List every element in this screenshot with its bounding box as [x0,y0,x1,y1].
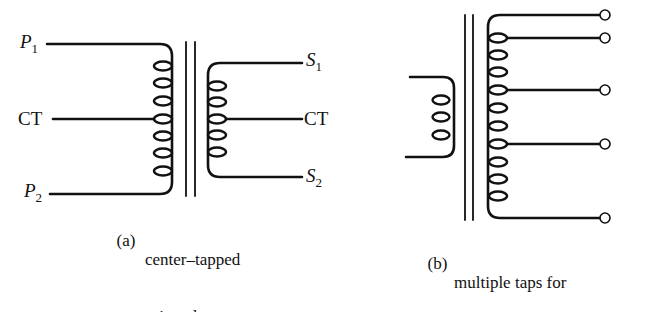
core-b [465,15,473,220]
secondary-winding-b [488,15,600,218]
label-ct-left: CT [18,109,42,129]
label-s1-main: S [306,49,316,70]
label-p1: P1 [20,32,38,59]
caption-b-text: multiple taps for voltage or impedance m… [454,235,600,312]
tap-terminal-icon [600,10,610,20]
tap-terminals [600,10,610,223]
label-p2-main: P [24,180,36,201]
label-p1-sub: 1 [32,41,39,56]
tap-terminal-icon [600,85,610,95]
tap-terminal-icon [600,33,610,43]
label-ct-right: CT [304,109,328,129]
label-p1-main: P [20,31,32,52]
tap-terminal-icon [600,139,610,149]
label-p2-sub: 2 [36,190,43,205]
label-s1-sub: 1 [316,59,323,74]
caption-b: (b) [419,235,447,273]
label-s1: S1 [306,50,322,77]
label-p2: P2 [24,181,42,208]
primary-winding-b [406,77,454,157]
secondary-winding-a [208,63,302,177]
label-s2-sub: 2 [316,175,323,190]
tap-terminal-icon [600,213,610,223]
label-s2: S2 [306,166,322,193]
caption-a-text: center–tapped pri. and sec. [145,212,240,312]
caption-a: (a) [108,212,135,250]
caption-b-tag: (b) [428,254,448,273]
caption-a-line1: center–tapped [145,250,240,269]
label-s2-main: S [306,165,316,186]
caption-b-line1: multiple taps for [454,273,600,292]
core-a [186,42,195,196]
caption-a-tag: (a) [117,231,136,250]
primary-winding-a [47,44,172,194]
caption-a-line2: pri. and sec. [145,307,240,312]
